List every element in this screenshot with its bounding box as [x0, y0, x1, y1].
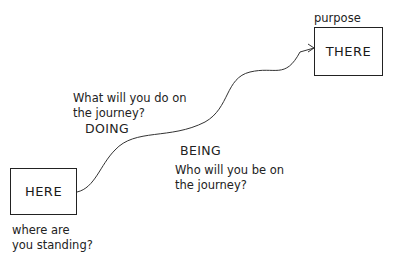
there-label: THERE — [326, 44, 372, 59]
being-heading: BEING — [180, 143, 221, 158]
journey-diagram: purpose THERE What will you do on the jo… — [0, 0, 394, 264]
here-label: HERE — [25, 184, 62, 199]
there-box: THERE — [314, 27, 383, 76]
end-caption-purpose: purpose — [314, 11, 361, 25]
start-caption-line1: where are — [12, 223, 70, 237]
start-caption-line2: you standing? — [12, 238, 93, 252]
being-question-line2: the journey? — [175, 178, 247, 192]
doing-question-line1: What will you do on — [73, 91, 187, 105]
doing-question-line2: the journey? — [73, 106, 145, 120]
doing-heading: DOING — [85, 121, 129, 136]
being-question-line1: Who will you be on — [175, 163, 284, 177]
here-box: HERE — [10, 168, 77, 215]
